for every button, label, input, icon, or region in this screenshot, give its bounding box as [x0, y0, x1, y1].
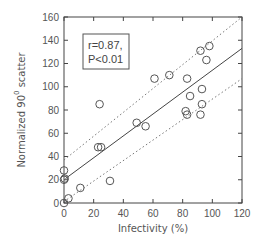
y-tick-label: 0 [53, 198, 59, 209]
chart-canvas: 020406080100120020406080100120140160 r=0… [0, 0, 263, 250]
data-point [106, 177, 114, 185]
data-point [198, 100, 206, 108]
data-point [203, 56, 211, 64]
confidence-band-lower [67, 79, 242, 200]
y-tick-label: 120 [42, 58, 59, 69]
scatter-chart: 020406080100120020406080100120140160 r=0… [0, 0, 263, 250]
data-point [197, 111, 205, 119]
annotation-p-value: P<0.01 [88, 53, 123, 65]
data-point [206, 42, 214, 50]
x-axis-title: Infectivity (%) [118, 223, 188, 234]
x-tick-label: 0 [61, 208, 67, 219]
y-tick-label: 100 [42, 81, 59, 92]
x-tick-label: 60 [147, 208, 159, 219]
annotation-r-value: r=0.87, [88, 39, 123, 51]
y-tick-label: 60 [48, 128, 60, 139]
x-tick-label: 80 [177, 208, 189, 219]
y-tick-label: 160 [42, 12, 59, 23]
y-tick-label: 40 [48, 151, 60, 162]
data-point [198, 85, 206, 93]
y-axis-title: Normalized 900 scatter [13, 52, 27, 168]
data-point [197, 47, 205, 55]
data-point [183, 75, 191, 83]
data-point [65, 195, 73, 203]
y-tick-label: 140 [42, 35, 59, 46]
data-point [142, 122, 150, 130]
data-point [96, 100, 104, 108]
x-tick-label: 100 [204, 208, 221, 219]
data-point [186, 92, 194, 100]
y-tick-label: 20 [48, 174, 60, 185]
annotation-box: r=0.87, P<0.01 [83, 34, 129, 69]
y-axis-title-main: Normalized 90 [16, 95, 27, 168]
data-point [133, 119, 141, 127]
x-tick-label: 40 [118, 208, 130, 219]
y-axis-title-suffix: scatter [16, 52, 27, 91]
data-point [166, 71, 174, 79]
data-point [151, 75, 159, 83]
x-tick-label: 120 [234, 208, 251, 219]
y-tick-label: 80 [48, 105, 60, 116]
axis-tick-labels: 020406080100120020406080100120140160 [42, 12, 250, 220]
x-tick-label: 20 [88, 208, 100, 219]
